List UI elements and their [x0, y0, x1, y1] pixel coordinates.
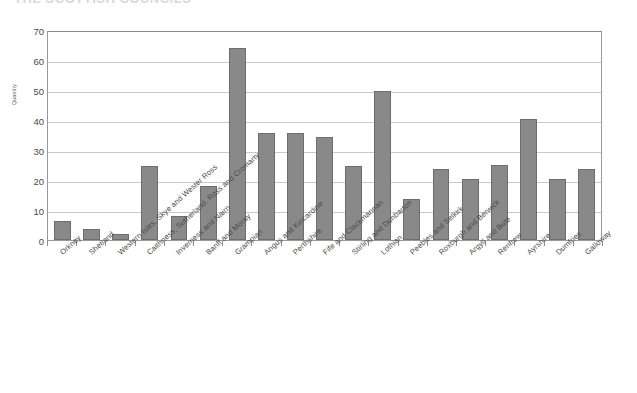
- bars-layer: [48, 32, 601, 240]
- bar-slot: [77, 32, 106, 240]
- bar[interactable]: [83, 229, 100, 240]
- y-axis-tick-label: 0: [39, 236, 44, 247]
- bar-slot: [572, 32, 601, 240]
- bar[interactable]: [578, 169, 595, 240]
- bar-slot: [106, 32, 135, 240]
- bar[interactable]: [258, 133, 275, 240]
- page-title: THE SCOTTISH COUNCILS: [14, 0, 191, 6]
- bar-slot: [543, 32, 572, 240]
- y-axis-tick-label: 20: [33, 176, 44, 187]
- bar-slot: [48, 32, 77, 240]
- bar[interactable]: [54, 221, 71, 240]
- y-axis-tick-label: 60: [33, 56, 44, 67]
- y-axis-tick-label: 70: [33, 26, 44, 37]
- bar-slot: [281, 32, 310, 240]
- bar[interactable]: [229, 48, 246, 240]
- plot-area: [47, 31, 602, 241]
- y-axis-tick-label: 30: [33, 146, 44, 157]
- bar-chart-figure: THE SCOTTISH COUNCILS Quantity 010203040…: [0, 0, 637, 393]
- bar-slot: [339, 32, 368, 240]
- y-axis-tick-label: 10: [33, 206, 44, 217]
- x-axis-tick-mark: [47, 241, 48, 246]
- y-axis-tick-labels: 010203040506070: [22, 31, 44, 241]
- x-axis-tick-labels: OrkneyShetlandWestern Isles, Skye and We…: [0, 248, 637, 393]
- bar[interactable]: [520, 119, 537, 240]
- bar-slot: [252, 32, 281, 240]
- bar[interactable]: [549, 179, 566, 240]
- y-axis-tick-label: 40: [33, 116, 44, 127]
- y-axis-title: Quantity: [11, 45, 17, 105]
- bar-slot: [426, 32, 455, 240]
- bar[interactable]: [316, 137, 333, 240]
- y-axis-tick-label: 50: [33, 86, 44, 97]
- bar-slot: [514, 32, 543, 240]
